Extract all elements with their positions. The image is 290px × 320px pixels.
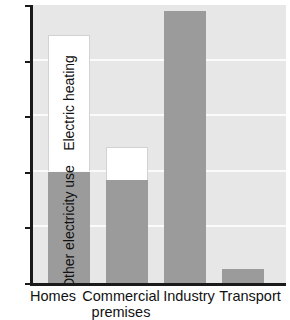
- bar-commercial-premises-other-electricity-use[interactable]: [106, 180, 148, 283]
- y-tick-mark-50: [25, 5, 30, 7]
- bar-industry-other-electricity-use[interactable]: [164, 11, 206, 283]
- x-axis-line: [30, 283, 286, 286]
- bar-label-other-electricity-use: Other electricity use: [62, 166, 76, 283]
- x-label-commercial-premises: Commercial premises: [80, 288, 162, 320]
- x-label-transport: Transport: [212, 288, 288, 304]
- bar-label-electric-heating: Electric heating: [62, 56, 76, 152]
- bar-commercial-premises-electric-heating[interactable]: [106, 147, 148, 181]
- y-tick-mark-20: [25, 172, 30, 174]
- y-axis-line: [30, 5, 33, 284]
- plot-area: Electric heating Other electricity use: [33, 5, 286, 283]
- y-tick-mark-10: [25, 227, 30, 229]
- bar-homes-electric-heating[interactable]: Electric heating: [48, 35, 90, 170]
- x-label-homes: Homes: [20, 288, 86, 304]
- y-tick-mark-30: [25, 116, 30, 118]
- y-tick-mark-40: [25, 61, 30, 63]
- bar-homes-other-electricity-use[interactable]: Other electricity use: [48, 172, 90, 283]
- y-tick-mark-0: [25, 283, 30, 285]
- bar-transport-other-electricity-use[interactable]: [222, 269, 264, 283]
